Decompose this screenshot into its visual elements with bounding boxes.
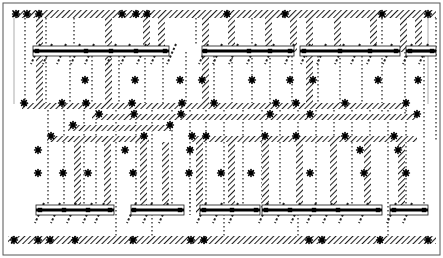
- node-core: [22, 101, 26, 105]
- node-core: [274, 101, 278, 105]
- beam-node: [288, 208, 292, 212]
- node: [70, 122, 77, 129]
- node-core: [123, 148, 127, 152]
- node: [403, 100, 410, 107]
- node: [273, 100, 280, 107]
- col-x: [398, 142, 405, 214]
- beam-node: [132, 208, 136, 212]
- node-core: [130, 101, 134, 105]
- node-core: [288, 78, 292, 82]
- node-core: [376, 78, 380, 82]
- node: [133, 11, 140, 18]
- node-core: [187, 171, 191, 175]
- node: [267, 111, 274, 118]
- beam-node: [264, 208, 268, 212]
- beam-node: [394, 49, 398, 53]
- beam-node: [288, 49, 292, 53]
- node-core: [392, 134, 396, 138]
- node: [249, 77, 256, 84]
- beam-node: [108, 208, 112, 212]
- node: [83, 100, 90, 107]
- beam-node: [368, 49, 372, 53]
- node-core: [134, 12, 138, 16]
- node: [129, 100, 136, 107]
- col-p: [140, 142, 147, 214]
- node: [379, 11, 386, 18]
- node-core: [180, 101, 184, 105]
- col-i: [306, 18, 313, 108]
- node-core: [14, 12, 18, 16]
- node: [60, 170, 67, 177]
- node-core: [249, 171, 253, 175]
- node-core: [190, 134, 194, 138]
- node: [342, 133, 349, 140]
- node: [287, 77, 294, 84]
- node: [357, 147, 364, 154]
- beam-node: [336, 208, 340, 212]
- node-core: [71, 123, 75, 127]
- node-core: [12, 238, 16, 242]
- node-core: [25, 12, 29, 16]
- node: [375, 77, 382, 84]
- node-core: [142, 134, 146, 138]
- col-r: [196, 142, 203, 214]
- node: [85, 170, 92, 177]
- node-core: [178, 78, 182, 82]
- col-e: [202, 18, 209, 108]
- node: [130, 237, 137, 244]
- node-core: [404, 101, 408, 105]
- node-core: [416, 78, 420, 82]
- node: [35, 170, 42, 177]
- node: [186, 170, 193, 177]
- node: [59, 100, 66, 107]
- node-core: [36, 171, 40, 175]
- node-core: [36, 238, 40, 242]
- node: [188, 237, 195, 244]
- beam-node: [134, 49, 138, 53]
- node-core: [84, 101, 88, 105]
- node-core: [268, 112, 272, 116]
- node: [306, 237, 313, 244]
- col-a: [36, 18, 43, 106]
- beam-node: [203, 49, 207, 53]
- col-b: [105, 18, 112, 108]
- node: [414, 111, 421, 118]
- beam-node: [163, 49, 167, 53]
- node: [319, 237, 326, 244]
- node: [248, 170, 255, 177]
- node-core: [83, 78, 87, 82]
- node-core: [294, 134, 298, 138]
- beam-node: [84, 49, 88, 53]
- mid-band-fourth: [47, 136, 149, 142]
- node-core: [307, 238, 311, 242]
- node: [403, 170, 410, 177]
- node-core: [396, 148, 400, 152]
- beam-node: [38, 208, 42, 212]
- node-core: [283, 12, 287, 16]
- node-core: [131, 171, 135, 175]
- node-core: [426, 12, 430, 16]
- node-core: [189, 238, 193, 242]
- node-core: [294, 101, 298, 105]
- mid-band-fifth: [190, 136, 417, 142]
- node: [395, 147, 402, 154]
- node: [24, 11, 31, 18]
- node: [293, 100, 300, 107]
- node: [425, 11, 432, 18]
- node: [189, 133, 196, 140]
- beam-node: [178, 208, 182, 212]
- beam-node: [392, 208, 396, 212]
- beam-node: [422, 208, 426, 212]
- node: [179, 100, 186, 107]
- node: [361, 170, 368, 177]
- node-core: [145, 12, 149, 16]
- node-core: [404, 171, 408, 175]
- node: [293, 133, 300, 140]
- node: [218, 170, 225, 177]
- node: [201, 237, 208, 244]
- node: [307, 111, 314, 118]
- node: [122, 147, 129, 154]
- node-core: [202, 238, 206, 242]
- node-core: [73, 238, 77, 242]
- node-core: [168, 123, 172, 127]
